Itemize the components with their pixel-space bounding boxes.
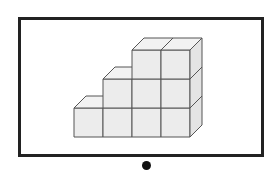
cube-front-face (132, 79, 161, 108)
cube-front-face (161, 108, 190, 137)
cube-front-face (74, 108, 103, 137)
cube-front-face (161, 79, 190, 108)
cube-front-face (103, 79, 132, 108)
cube-front-face (132, 50, 161, 79)
cube-front-face (132, 108, 161, 137)
cube-staircase (0, 0, 278, 175)
indicator-dot (142, 161, 151, 170)
cube-front-face (103, 108, 132, 137)
cube-front-face (161, 50, 190, 79)
